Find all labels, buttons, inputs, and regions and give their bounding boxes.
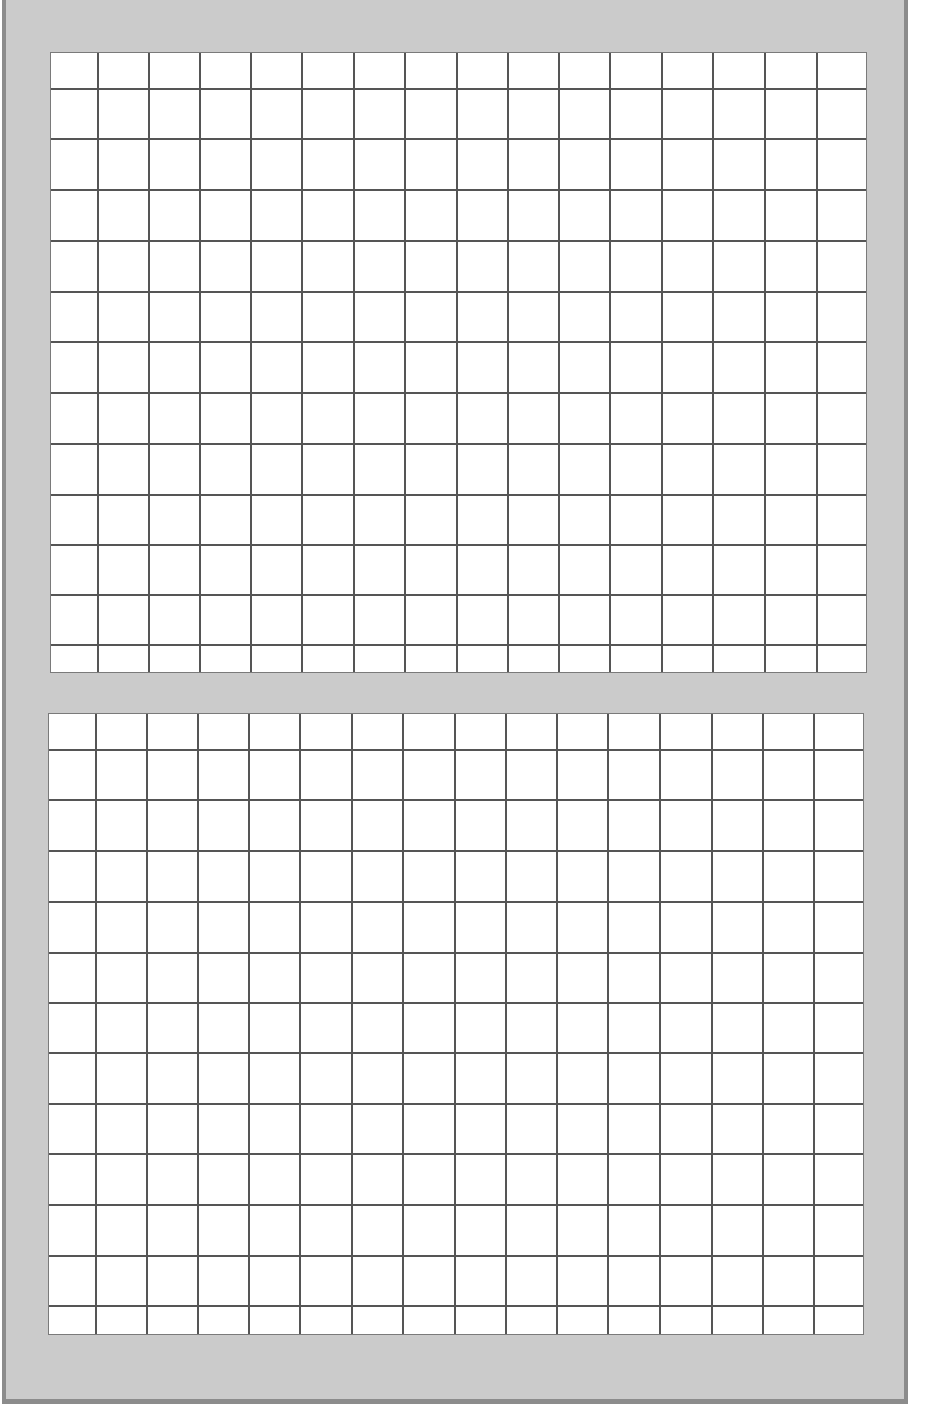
grid-vertical-line (659, 714, 661, 1334)
grid-horizontal-line (51, 644, 866, 646)
grid-horizontal-line (49, 1305, 863, 1307)
grid-vertical-line (507, 53, 509, 672)
grid-horizontal-line (49, 952, 863, 954)
grid-horizontal-line (49, 1153, 863, 1155)
grid-vertical-line (404, 53, 406, 672)
grid-vertical-line (146, 714, 148, 1334)
grid-vertical-line (97, 53, 99, 672)
grid-horizontal-line (49, 1002, 863, 1004)
grid-horizontal-line (51, 138, 866, 140)
grid-vertical-line (813, 714, 815, 1334)
grid-vertical-line (148, 53, 150, 672)
grid-vertical-line (199, 53, 201, 672)
grid-horizontal-line (49, 850, 863, 852)
grid-vertical-line (402, 714, 404, 1334)
grid-horizontal-line (51, 392, 866, 394)
grid-horizontal-line (51, 443, 866, 445)
bottom-grid (48, 713, 864, 1335)
grid-vertical-line (505, 714, 507, 1334)
grid-vertical-line (95, 714, 97, 1334)
grid-vertical-line (816, 53, 818, 672)
grid-vertical-line (351, 714, 353, 1334)
grid-vertical-line (454, 714, 456, 1334)
grid-vertical-line (556, 714, 558, 1334)
grid-horizontal-line (51, 494, 866, 496)
grid-vertical-line (762, 714, 764, 1334)
grid-vertical-line (248, 714, 250, 1334)
grid-horizontal-line (49, 1204, 863, 1206)
grid-vertical-line (456, 53, 458, 672)
grid-horizontal-line (51, 189, 866, 191)
grid-vertical-line (558, 53, 560, 672)
grid-horizontal-line (49, 1255, 863, 1257)
grid-vertical-line (712, 53, 714, 672)
grid-vertical-line (353, 53, 355, 672)
grid-vertical-line (250, 53, 252, 672)
grid-horizontal-line (49, 749, 863, 751)
grid-vertical-line (764, 53, 766, 672)
grid-vertical-line (607, 714, 609, 1334)
grid-vertical-line (661, 53, 663, 672)
grid-horizontal-line (51, 240, 866, 242)
grid-horizontal-line (49, 799, 863, 801)
top-grid (50, 52, 867, 673)
grid-vertical-line (609, 53, 611, 672)
grid-vertical-line (301, 53, 303, 672)
grid-vertical-line (711, 714, 713, 1334)
grid-horizontal-line (49, 1103, 863, 1105)
grid-horizontal-line (51, 594, 866, 596)
grid-horizontal-line (51, 291, 866, 293)
grid-horizontal-line (49, 1052, 863, 1054)
grid-vertical-line (197, 714, 199, 1334)
grid-horizontal-line (51, 544, 866, 546)
grid-horizontal-line (49, 901, 863, 903)
grid-horizontal-line (51, 341, 866, 343)
grid-horizontal-line (51, 88, 866, 90)
grid-vertical-line (299, 714, 301, 1334)
